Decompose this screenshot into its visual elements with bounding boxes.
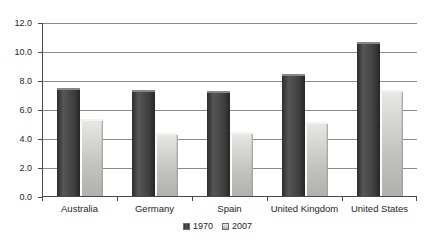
legend-swatch-1970 [183, 223, 190, 230]
x-tick [267, 197, 268, 201]
bar-2007-spain [230, 132, 253, 197]
y-tick-10.0 [38, 52, 42, 53]
bar-1970-australia [57, 88, 80, 197]
bar-2007-united-states [380, 90, 403, 197]
x-tick [42, 197, 43, 201]
y-axis-tick-label: 10.0 [2, 48, 32, 57]
bar-chart: 0.02.04.06.08.010.012.0 AustraliaGermany… [0, 0, 435, 243]
bar-1970-united-kingdom [282, 74, 305, 197]
legend-swatch-2007 [222, 223, 229, 230]
y-axis-tick-label: 12.0 [2, 19, 32, 28]
x-tick [342, 197, 343, 201]
x-axis-category-label: United States [342, 203, 417, 214]
bar-1970-united-states [357, 42, 380, 197]
x-axis-category-label: Australia [42, 203, 117, 214]
x-axis-line [42, 196, 417, 197]
y-axis-tick-label: 6.0 [2, 106, 32, 115]
bar-2007-germany [155, 133, 178, 197]
bar-2007-australia [80, 119, 103, 197]
x-tick [192, 197, 193, 201]
legend-item-1970: 1970 [183, 221, 213, 231]
y-axis-tick-label: 0.0 [2, 193, 32, 202]
legend-label: 2007 [232, 221, 252, 231]
y-axis-tick-label: 8.0 [2, 77, 32, 86]
y-axis-tick-label: 4.0 [2, 135, 32, 144]
bar-1970-spain [207, 91, 230, 197]
gridline-12.0 [42, 23, 417, 24]
legend-label: 1970 [193, 221, 213, 231]
y-tick-4.0 [38, 139, 42, 140]
x-tick [117, 197, 118, 201]
legend: 19702007 [0, 221, 435, 231]
y-tick-8.0 [38, 81, 42, 82]
x-axis-category-label: Germany [117, 203, 192, 214]
y-tick-6.0 [38, 110, 42, 111]
x-axis-category-label: Spain [192, 203, 267, 214]
y-tick-2.0 [38, 168, 42, 169]
y-tick-12.0 [38, 23, 42, 24]
y-axis-line [42, 23, 43, 197]
x-tick [416, 197, 417, 201]
bar-2007-united-kingdom [305, 122, 328, 197]
x-axis-category-label: United Kingdom [267, 203, 342, 214]
y-axis-tick-label: 2.0 [2, 164, 32, 173]
legend-item-2007: 2007 [222, 221, 252, 231]
bar-1970-germany [132, 90, 155, 197]
plot-area [42, 23, 417, 197]
